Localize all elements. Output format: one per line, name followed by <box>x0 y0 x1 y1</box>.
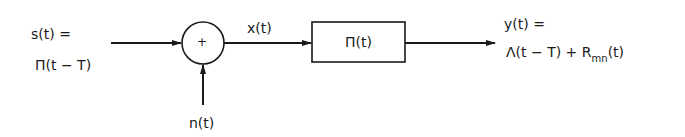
filter-label: Π(t) <box>312 35 405 49</box>
intermediate-signal-label: x(t) <box>247 21 272 35</box>
input-signal-label-line1: s(t) = <box>31 27 71 41</box>
output-signal-label-line2: Λ(t − T) + Rmn(t) <box>506 45 624 59</box>
noise-label: n(t) <box>189 116 214 130</box>
block-diagram-lines <box>0 0 685 137</box>
output-expr-tail: (t) <box>608 44 624 60</box>
output-signal-label-line1: y(t) = <box>504 17 545 31</box>
output-expr-subscript: mn <box>592 53 608 64</box>
plus-sign: + <box>197 36 207 48</box>
output-expr-main: Λ(t − T) + R <box>506 44 592 60</box>
input-signal-label-line2: Π(t − T) <box>35 58 91 72</box>
